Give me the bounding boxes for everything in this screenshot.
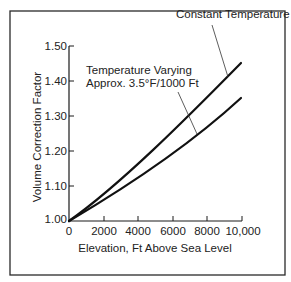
x-tick-label: 2000 — [91, 225, 117, 237]
y-tick-label: 1.50 — [45, 40, 67, 52]
y-tick-label: 1.40 — [45, 75, 67, 87]
x-tick-label: 0 — [66, 225, 72, 237]
y-tick-label: 1.00 — [45, 213, 67, 225]
x-tick-labels: 0 2000 4000 6000 8000 10,000 — [66, 225, 261, 237]
y-tick-label: 1.30 — [45, 110, 67, 122]
annotation-constant-temperature: Constant Temperature — [176, 8, 290, 20]
annotation-temperature-varying-line2: Approx. 3.5°F/1000 Ft — [86, 77, 199, 89]
x-axis-title: Elevation, Ft Above Sea Level — [78, 242, 231, 254]
x-tick-label: 6000 — [160, 225, 186, 237]
x-tick-label: 4000 — [125, 225, 151, 237]
annotation-temperature-varying-line1: Temperature Varying — [86, 64, 192, 76]
leader-line-constant — [212, 25, 228, 77]
x-tick-label: 8000 — [194, 225, 220, 237]
y-tick-labels: 1.50 1.40 1.30 1.20 1.10 1.00 — [45, 40, 67, 225]
y-axis-title: Volume Correction Factor — [31, 72, 43, 203]
x-tick-label: 10,000 — [225, 225, 260, 237]
y-ticks — [69, 46, 74, 186]
leader-line-varying — [178, 92, 197, 134]
y-tick-label: 1.10 — [45, 180, 67, 192]
y-tick-label: 1.20 — [45, 145, 67, 157]
chart: 1.50 1.40 1.30 1.20 1.10 1.00 0 2000 400… — [0, 0, 291, 282]
x-ticks — [104, 216, 242, 221]
